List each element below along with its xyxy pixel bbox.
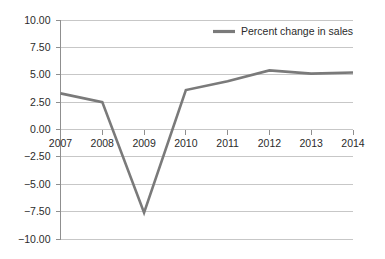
gridlines: [61, 20, 354, 239]
legend-label-percent-change-in-sales: Percent change in sales: [241, 25, 353, 37]
x-axis-tick-label: 2012: [258, 137, 282, 149]
y-axis-tick-labels: 10.007.505.002.500.00−2.50−5.00−7.50−10.…: [18, 14, 51, 245]
y-axis-tick-label: 5.00: [30, 68, 51, 80]
x-axis-tick-label: 2014: [341, 137, 365, 149]
y-axis-tick-label: 7.50: [30, 41, 51, 53]
chart-canvas: 10.007.505.002.500.00−2.50−5.00−7.50−10.…: [0, 0, 385, 259]
x-axis-tick-label: 2013: [300, 137, 324, 149]
y-axis-tick-label: −2.50: [24, 150, 51, 162]
y-axis-tick-label: −5.00: [24, 178, 51, 190]
x-axis-tick-label: 2007: [49, 137, 73, 149]
x-axis-tick-label: 2011: [216, 137, 239, 149]
x-axis-tick-marks: [61, 130, 354, 135]
x-axis-tick-label: 2008: [91, 137, 115, 149]
y-axis-tick-label: 2.50: [30, 96, 51, 108]
y-axis-tick-label: 10.00: [24, 14, 50, 26]
y-axis-tick-label: −7.50: [24, 205, 51, 217]
y-axis-tick-label: −10.00: [18, 233, 51, 245]
line-chart: 10.007.505.002.500.00−2.50−5.00−7.50−10.…: [0, 0, 385, 259]
x-axis-tick-labels: 20072008200920102011201220132014: [49, 137, 365, 149]
y-axis-tick-label: 0.00: [30, 123, 51, 135]
x-axis-tick-label: 2010: [174, 137, 198, 149]
x-axis-tick-label: 2009: [132, 137, 156, 149]
y-tick-marks: [56, 20, 61, 239]
legend: Percent change in sales: [213, 25, 353, 37]
